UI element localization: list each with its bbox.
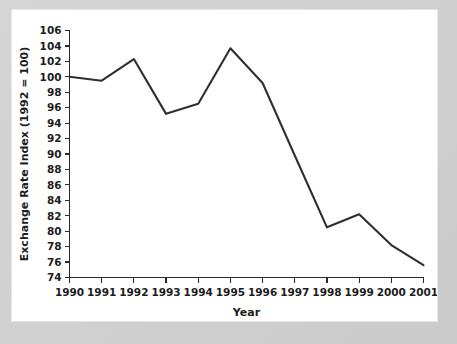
x-tick-label: 1997 [280,286,309,298]
y-tick-label: 92 [47,132,62,144]
y-axis-tick-labels: 74767880828486889092949698100102104106 [40,24,62,283]
x-axis-title: Year [232,306,261,319]
x-tick-label: 2001 [409,286,437,298]
x-tick-label: 1991 [87,286,116,298]
y-tick-label: 86 [47,179,62,191]
y-tick-label: 74 [47,271,62,283]
x-tick-label: 1994 [184,286,213,298]
x-tick-label: 1992 [119,286,148,298]
y-tick-label: 76 [47,256,62,268]
x-tick-label: 1995 [216,286,245,298]
x-axis-tick-marks [70,278,424,283]
y-tick-label: 100 [40,71,62,83]
y-tick-label: 78 [47,240,62,252]
x-tick-label: 1990 [55,286,84,298]
x-axis-tick-labels: 1990199119921993199419951996199719981999… [55,286,437,298]
y-tick-label: 82 [47,210,62,222]
y-axis-tick-marks [65,31,70,278]
x-tick-label: 1998 [312,286,341,298]
y-tick-label: 90 [47,148,62,160]
y-tick-label: 94 [47,117,62,129]
x-tick-label: 1993 [151,286,180,298]
y-tick-label: 80 [47,225,62,237]
figure-frame: 74767880828486889092949698100102104106 1… [0,0,457,344]
y-tick-label: 106 [40,24,62,36]
x-tick-label: 1996 [248,286,277,298]
chart-plot-card: 74767880828486889092949698100102104106 1… [12,10,437,321]
y-tick-label: 84 [47,194,62,206]
data-series-exchange-rate-index [70,48,424,265]
y-tick-label: 102 [40,55,62,67]
line-chart: 74767880828486889092949698100102104106 1… [12,10,437,321]
y-tick-label: 88 [47,163,62,175]
x-tick-label: 2000 [377,286,406,298]
y-tick-label: 96 [47,101,62,113]
y-tick-label: 98 [47,86,62,98]
y-axis-title: Exchange Rate Index (1992 = 100) [18,47,31,262]
y-tick-label: 104 [40,40,62,52]
x-tick-label: 1999 [345,286,374,298]
